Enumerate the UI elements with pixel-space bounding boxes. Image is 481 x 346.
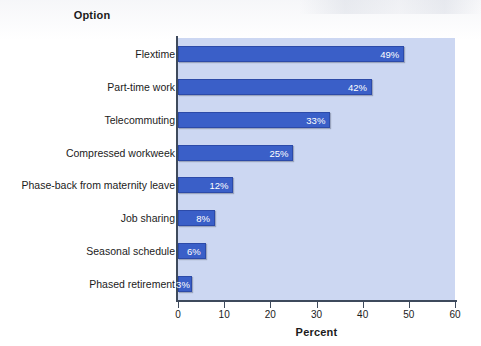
bar-row: Phase-back from maternity leave12% <box>0 169 481 201</box>
bar-row: Compressed workweek25% <box>0 137 481 169</box>
bar-row: Seasonal schedule6% <box>0 235 481 267</box>
category-label: Phased retirement <box>89 278 175 290</box>
x-axis-tick-label: 50 <box>403 309 414 320</box>
x-axis-title: Percent <box>178 326 455 338</box>
x-axis-tick-label: 10 <box>219 309 230 320</box>
bar-chart: Option Flextime49%Part-time work42%Telec… <box>0 0 481 346</box>
category-label: Telecommuting <box>104 114 175 126</box>
x-axis-tick <box>409 302 410 308</box>
bar-value-label: 8% <box>196 213 210 224</box>
category-label: Flextime <box>135 48 175 60</box>
x-axis-tick <box>270 302 271 308</box>
category-label: Phase-back from maternity leave <box>22 179 175 191</box>
category-label: Part-time work <box>107 81 175 93</box>
category-label: Job sharing <box>121 212 175 224</box>
bar-value-label: 33% <box>306 114 325 125</box>
bar-row: Part-time work42% <box>0 71 481 103</box>
bar-value-label: 49% <box>380 49 399 60</box>
bar-row: Job sharing8% <box>0 202 481 234</box>
bar: 6% <box>178 243 206 259</box>
x-axis-tick <box>224 302 225 308</box>
x-axis-tick <box>363 302 364 308</box>
bar: 12% <box>178 177 233 193</box>
bar: 42% <box>178 79 372 95</box>
bar-row: Flextime49% <box>0 38 481 70</box>
bar: 8% <box>178 210 215 226</box>
x-axis-tick-label: 40 <box>357 309 368 320</box>
x-axis-tick <box>178 302 179 308</box>
bar: 33% <box>178 112 330 128</box>
bar-value-label: 12% <box>209 180 228 191</box>
x-axis-tick-label: 20 <box>265 309 276 320</box>
y-axis-title: Option <box>0 9 184 21</box>
x-axis-tick-label: 30 <box>311 309 322 320</box>
bar-row: Telecommuting33% <box>0 104 481 136</box>
x-axis-tick <box>317 302 318 308</box>
scan-artifact-corner <box>300 0 481 14</box>
bar: 25% <box>178 145 293 161</box>
x-axis-tick-label: 0 <box>175 309 181 320</box>
bar-row: Phased retirement3% <box>0 268 481 300</box>
x-axis-tick-label: 60 <box>449 309 460 320</box>
category-label: Compressed workweek <box>66 147 175 159</box>
bar-value-label: 6% <box>187 245 201 256</box>
bar-value-label: 25% <box>269 147 288 158</box>
category-label: Seasonal schedule <box>86 245 175 257</box>
x-axis-tick <box>455 302 456 308</box>
bar-value-label: 3% <box>176 278 190 289</box>
bar: 49% <box>178 46 404 62</box>
bar: 3% <box>178 276 192 292</box>
bar-value-label: 42% <box>348 82 367 93</box>
